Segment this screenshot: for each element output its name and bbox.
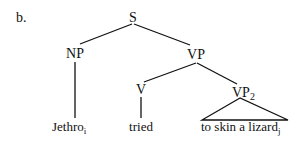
example-label: b.	[16, 10, 27, 25]
node-s: S	[129, 10, 137, 25]
node-np: NP	[66, 46, 84, 61]
syntax-tree-diagram: b. S NP VP V VP2 Jethroi tried to skin a…	[0, 0, 301, 144]
branch-s-np	[80, 24, 132, 44]
leaf-jethro: Jethroi	[52, 119, 87, 136]
tree-branches	[75, 24, 288, 120]
node-vp2-label: VP	[232, 85, 250, 100]
leaf-tried: tried	[129, 119, 153, 134]
leaf-jethro-text: Jethro	[52, 119, 84, 134]
leaf-to-skin-a-lizard-text: to skin a lizard	[201, 119, 278, 134]
branch-vp-vp2	[197, 63, 237, 84]
leaf-to-skin-a-lizard-subscript: j	[277, 126, 281, 136]
leaf-jethro-subscript: i	[84, 126, 87, 136]
branch-s-vp	[134, 24, 190, 45]
node-vp2-subscript: 2	[250, 91, 255, 102]
leaf-to-skin-a-lizard: to skin a lizardj	[201, 119, 280, 136]
node-vp: VP	[187, 47, 205, 62]
vp2-triangle	[202, 98, 288, 120]
node-v: V	[136, 82, 146, 97]
node-vp2: VP2	[232, 85, 255, 102]
branch-vp-v	[144, 63, 196, 82]
